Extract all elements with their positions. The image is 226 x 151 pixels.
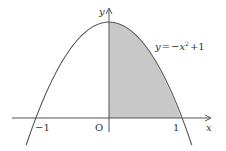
- y-axis-label: y: [98, 6, 105, 17]
- shaded-area-region: [109, 22, 181, 118]
- function-label-y: y: [154, 41, 161, 52]
- tick-label-neg1: −1: [35, 122, 50, 133]
- function-label-minus: −: [171, 41, 179, 52]
- origin-label: O: [95, 122, 103, 133]
- function-label-eq: =: [162, 41, 170, 52]
- tick-label-1: 1: [173, 122, 179, 133]
- x-axis-label: x: [206, 122, 212, 133]
- function-label-plus: +1: [190, 41, 205, 52]
- function-label: y=−x2+1: [154, 40, 205, 52]
- function-graph: y x O −1 1 y=−x2+1: [0, 0, 226, 151]
- function-label-exp: 2: [185, 40, 189, 47]
